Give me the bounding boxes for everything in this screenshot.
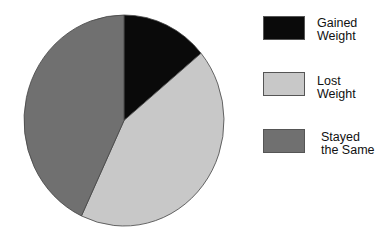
legend-label: GainedWeight	[317, 17, 357, 42]
legend-label: LostWeight	[317, 75, 356, 100]
legend-swatch	[263, 72, 305, 96]
pie-chart	[0, 0, 250, 238]
legend-label: Stayedthe Same	[321, 131, 375, 156]
legend-swatch	[263, 16, 305, 40]
legend-swatch	[263, 129, 305, 153]
